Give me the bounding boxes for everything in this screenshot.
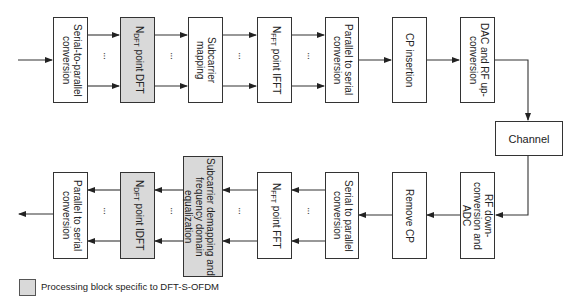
subcarrier-mapping-block: Subcarrier mapping bbox=[188, 17, 223, 103]
dac-rf-up-block: DAC and RF up-conversion bbox=[460, 17, 495, 103]
block-label: CP insertion bbox=[404, 33, 415, 87]
cp-insertion-block: CP insertion bbox=[392, 17, 427, 103]
rf-down-adc-block: RF down-conversion and ADC bbox=[460, 172, 495, 259]
block-label: RF down-conversion and ADC bbox=[462, 173, 494, 258]
block-label: Subcarrier demapping and frequency domai… bbox=[190, 157, 216, 276]
block-label: NFFT point FFT bbox=[268, 183, 282, 249]
ellipsis: ··· bbox=[99, 52, 109, 59]
block-label: DAC and RF up-conversion bbox=[466, 18, 490, 102]
block-label: Parallel to serial conversion bbox=[59, 173, 83, 258]
block-label: NDFT point DFT bbox=[131, 26, 145, 94]
ellipsis: ··· bbox=[234, 52, 244, 59]
legend-label: Processing block specific to DFT-S-OFDM bbox=[41, 281, 219, 292]
ellipsis: ··· bbox=[303, 52, 313, 59]
ellipsis: ··· bbox=[166, 207, 176, 214]
block-label: Parallel to serial conversion bbox=[330, 18, 354, 102]
channel-block: Channel bbox=[495, 121, 563, 156]
block-label: NDFT point IDFT bbox=[131, 180, 145, 250]
subcarrier-demapping-fde-block: Subcarrier demapping and frequency domai… bbox=[183, 156, 223, 277]
ellipsis: ··· bbox=[99, 207, 109, 214]
block-label: Channel bbox=[509, 133, 550, 145]
block-label: Remove CP bbox=[404, 189, 415, 243]
serial-to-parallel-rx-block: Serial to parallel conversion bbox=[325, 172, 359, 259]
ifft-block: NFFT point IFFT bbox=[257, 17, 292, 103]
block-label: Subcarrier mapping bbox=[195, 18, 217, 102]
block-label: Serial-to-parallel conversion bbox=[59, 18, 83, 102]
ellipsis: ··· bbox=[234, 207, 244, 214]
ellipsis: ··· bbox=[166, 52, 176, 59]
parallel-to-serial-rx-block: Parallel to serial conversion bbox=[53, 172, 88, 259]
legend-swatch bbox=[19, 279, 36, 296]
serial-to-parallel-block: Serial-to-parallel conversion bbox=[53, 17, 88, 103]
block-label: Serial to parallel conversion bbox=[330, 173, 354, 258]
dft-block: NDFT point DFT bbox=[120, 17, 155, 103]
fft-block: NFFT point FFT bbox=[257, 172, 292, 259]
ellipsis: ··· bbox=[303, 207, 313, 214]
idft-block: NDFT point IDFT bbox=[120, 172, 155, 259]
block-label: NFFT point IFFT bbox=[268, 26, 282, 94]
parallel-to-serial-block: Parallel to serial conversion bbox=[325, 17, 359, 103]
remove-cp-block: Remove CP bbox=[392, 172, 427, 259]
